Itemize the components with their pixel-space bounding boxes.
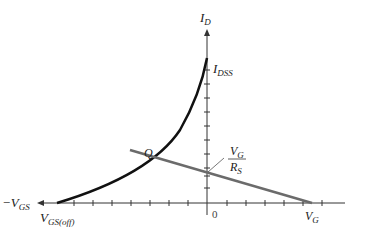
q-point-label: Q bbox=[144, 146, 153, 160]
load-line bbox=[130, 150, 312, 203]
y-axis-label: ID bbox=[199, 10, 211, 27]
origin-label: 0 bbox=[212, 208, 218, 220]
idss-label: IDSS bbox=[212, 61, 233, 78]
vg-rs-pointer bbox=[208, 158, 224, 172]
transfer-curve bbox=[57, 58, 207, 203]
vg-axis-label: VG bbox=[305, 209, 319, 225]
neg-vgs-axis-label: −VGS bbox=[2, 195, 30, 212]
jfet-transfer-diagram: ID IDSS −VGS VGS(off) Q VG RS 0 VG bbox=[0, 0, 370, 234]
vg-rs-denominator: RS bbox=[229, 160, 242, 176]
vg-rs-numerator: VG bbox=[230, 144, 244, 160]
vgs-off-label: VGS(off) bbox=[40, 210, 74, 227]
